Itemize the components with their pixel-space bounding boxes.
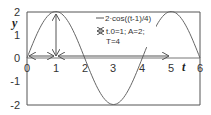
- svg-text:0: 0: [24, 62, 30, 74]
- svg-text:6: 6: [197, 62, 203, 74]
- legend: 2·cos((t-1)/4) t.0=1; A=2; T=4: [94, 13, 156, 47]
- y-axis-label: y: [10, 16, 18, 30]
- x-tick-labels: 0 1 2 3 4 5 6: [24, 62, 203, 74]
- svg-text:1: 1: [14, 29, 20, 41]
- svg-text:5: 5: [168, 62, 174, 74]
- chart-canvas: 2 1 0 -1 -2 y 0 1 2 3 4 5 6 t 2·cos((t-1…: [0, 0, 211, 115]
- svg-text:0: 0: [14, 52, 20, 64]
- x-axis-label: t: [182, 60, 186, 74]
- svg-text:3: 3: [110, 62, 116, 74]
- svg-text:1: 1: [53, 62, 59, 74]
- svg-text:-1: -1: [10, 75, 20, 87]
- legend-line-label: 2·cos((t-1)/4): [105, 14, 152, 23]
- legend-arrow-label-2: T=4: [106, 37, 121, 46]
- legend-arrow-label-1: t.0=1; A=2;: [106, 27, 145, 36]
- svg-text:-2: -2: [10, 99, 20, 111]
